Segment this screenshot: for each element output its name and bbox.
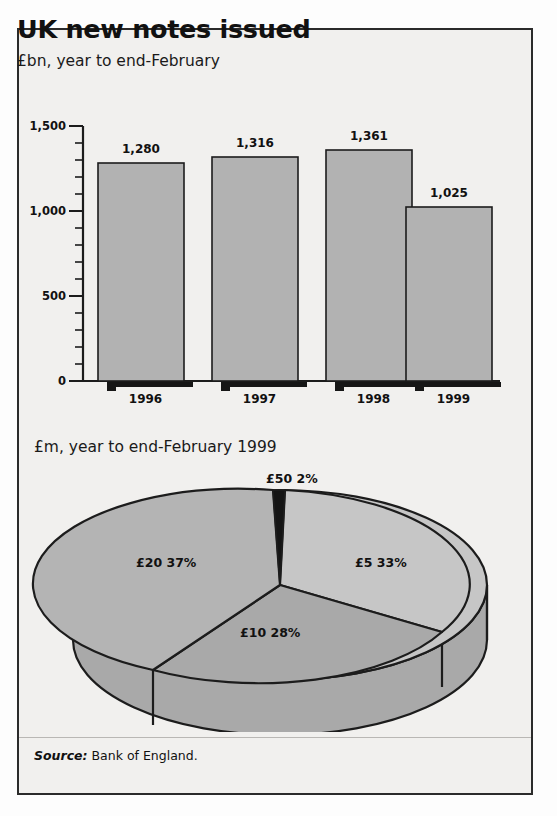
bar-value-1997: 1,316 — [212, 136, 298, 150]
pie-chart: £50 2% £5 33% £20 37% £10 28% — [0, 462, 557, 732]
pie-slice-label-50: £50 2% — [266, 471, 318, 486]
bar-value-1996: 1,280 — [98, 142, 184, 156]
x-tick-label-1999: 1999 — [406, 392, 501, 406]
x-tick-label-1996: 1996 — [98, 392, 193, 406]
pie-slice-label-10: £10 28% — [240, 625, 300, 640]
bar-value-1998: 1,361 — [326, 129, 412, 143]
y-axis-major-ticks — [69, 126, 83, 381]
pie-slice-label-20: £20 37% — [136, 555, 196, 570]
x-tick-label-1997: 1997 — [212, 392, 307, 406]
y-tick-label-0: 0 — [14, 374, 66, 388]
pie-chart-subtitle: £m, year to end-February 1999 — [34, 438, 277, 456]
source-label: Source: — [34, 748, 88, 763]
pie-chart-svg — [0, 462, 557, 732]
bar-1999 — [406, 207, 492, 391]
y-tick-label-1000: 1,000 — [14, 204, 66, 218]
source-value: Bank of England. — [88, 748, 198, 763]
y-axis-minor-ticks — [75, 143, 83, 364]
figure-page: UK new notes issued £bn, year to end-Feb… — [0, 0, 557, 816]
bar-1997 — [212, 157, 298, 391]
source-divider — [19, 737, 531, 738]
bar-value-1999: 1,025 — [406, 186, 492, 200]
bar-base-shadows — [107, 382, 501, 387]
y-tick-label-1500: 1,500 — [14, 119, 66, 133]
y-tick-label-500: 500 — [14, 289, 66, 303]
bar-chart: 1,500 1,000 500 0 1,280 1,316 1,361 1,02… — [0, 86, 512, 391]
bar-chart-subtitle: £bn, year to end-February — [17, 52, 220, 70]
page-title: UK new notes issued — [17, 14, 311, 44]
pie-slice-label-5: £5 33% — [355, 555, 407, 570]
bar-1998 — [326, 150, 412, 391]
source-note: Source: Bank of England. — [34, 748, 198, 763]
bar-1996 — [98, 163, 184, 391]
bar-chart-svg — [0, 86, 512, 391]
